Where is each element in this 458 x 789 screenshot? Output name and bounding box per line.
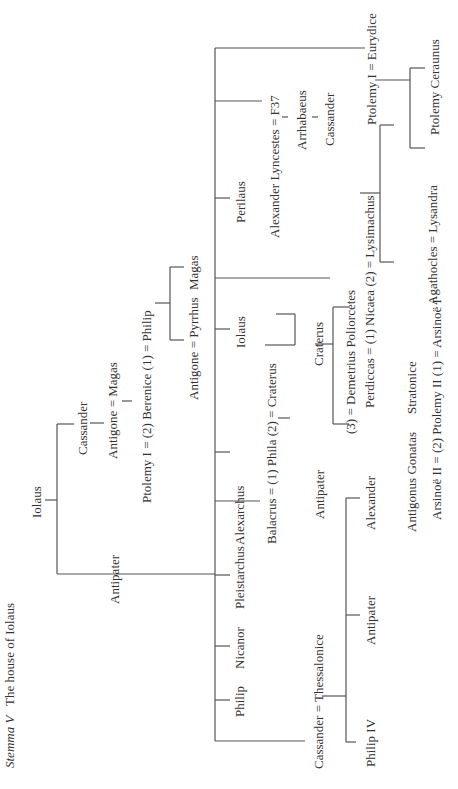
node-perilaus: Perilaus bbox=[234, 181, 247, 223]
node-pleistarchus: Pleistarchus bbox=[233, 546, 246, 609]
node-iolaus-root: Iolaus bbox=[30, 486, 43, 518]
node-antipater-gs: Antipater bbox=[313, 470, 326, 519]
node-alexarchus: Alexarchus bbox=[233, 486, 246, 545]
node-antigonus-gonatas: Antigonus Gonatas bbox=[405, 432, 418, 532]
node-alexander-cass: Alexander bbox=[364, 476, 377, 530]
node-philip-iv: Philip IV bbox=[364, 719, 377, 767]
node-ptolemy-eurydice: Ptolemy I = Eurydice bbox=[365, 13, 378, 125]
node-iolaus-son: Iolaus bbox=[234, 316, 247, 348]
node-cassander-lyncestes: Cassander bbox=[323, 93, 336, 146]
node-antipater: Antipater bbox=[108, 555, 121, 604]
node-nicanor: Nicanor bbox=[233, 627, 246, 669]
node-demetrius: (3) = Demetrius Poliorcetes bbox=[344, 290, 357, 434]
node-stratonice: Stratonice bbox=[405, 361, 418, 414]
node-antigone-magas: Antigone = Magas bbox=[106, 362, 119, 459]
node-ptolemy-ceraunus: Ptolemy Ceraunus bbox=[428, 39, 441, 135]
node-antipater-cass: Antipater bbox=[364, 596, 377, 645]
node-agathocles-lysandra: Agathocles = Lysandra bbox=[426, 185, 439, 305]
node-philip: Philip bbox=[233, 686, 246, 717]
stemma-label: Stemma V bbox=[2, 716, 17, 768]
stemma-connector-lines bbox=[0, 0, 458, 789]
node-cassander-son: Cassander bbox=[76, 402, 89, 455]
node-arrhabaeus: Arrhabaeus bbox=[295, 90, 308, 150]
node-ptolemy-berenice-philip: Ptolemy I = (2) Berenice (1) = Philip bbox=[140, 310, 153, 503]
node-arsinoe-ptolemy: Arsinoë II = (2) Ptolemy II (1) = Arsino… bbox=[430, 299, 443, 520]
node-craterus-gs: Craterus bbox=[312, 322, 325, 366]
node-alexander-lyncestes: Alexander Lyncestes = F37 bbox=[268, 95, 281, 238]
node-antigone-pyrrhus: Antigone = Pyrrhus bbox=[187, 297, 200, 400]
node-balacrus-phila-craterus: Balacrus = (1) Phila (2) = Craterus bbox=[265, 363, 278, 544]
node-cassander-thessalonice: Cassander = Thessalonice bbox=[312, 634, 325, 769]
stemma-title: Stemma V The house of Iolaus bbox=[3, 603, 16, 768]
stemma-caption: The house of Iolaus bbox=[2, 603, 17, 706]
node-perdiccas-nicaea-lysimachus: Perdiccas = (1) Nicaea (2) = Lysimachus bbox=[363, 196, 376, 408]
node-magas: Magas bbox=[187, 255, 200, 290]
